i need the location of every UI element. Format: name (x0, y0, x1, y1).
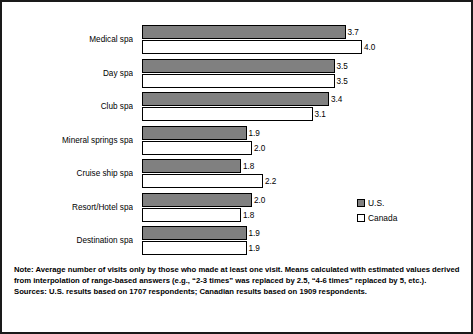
bar-group: Mineral springs spa1.92.0 (2, 126, 471, 156)
bar-stack: 1.82.2 (142, 159, 263, 188)
bar-value-label: 3.4 (331, 95, 342, 104)
bar-us: 3.5 (142, 59, 335, 73)
bar-value-label: 1.8 (243, 162, 254, 171)
bar-canada: 3.1 (142, 107, 313, 121)
bar-value-label: 1.9 (249, 244, 260, 253)
chart-footer: Note: Average number of visits only by t… (14, 265, 461, 298)
bar-canada: 4.0 (142, 40, 362, 54)
category-label: Day spa (2, 59, 133, 89)
bar-value-label: 1.9 (249, 128, 260, 137)
legend-item: U.S. (357, 198, 397, 208)
bar-us: 1.9 (142, 126, 247, 140)
bar-value-label: 1.9 (249, 229, 260, 238)
bar-group: Day spa3.53.5 (2, 59, 471, 89)
bar-value-label: 3.7 (348, 28, 359, 37)
bar-group: Resort/Hotel spa2.01.8 (2, 193, 471, 223)
bar-group: Club spa3.43.1 (2, 92, 471, 122)
bar-us: 3.7 (142, 25, 346, 39)
bar-value-label: 4.0 (364, 43, 375, 52)
bar-canada: 1.8 (142, 208, 241, 222)
legend-item: Canada (357, 213, 397, 223)
category-label: Destination spa (2, 226, 133, 256)
bar-stack: 3.43.1 (142, 92, 329, 121)
bar-us: 1.8 (142, 159, 241, 173)
bar-group: Destination spa1.91.9 (2, 226, 471, 256)
note-text: Note: Average number of visits only by t… (14, 265, 461, 287)
legend-label: U.S. (368, 198, 384, 208)
bar-stack: 3.74.0 (142, 25, 362, 54)
bar-value-label: 2.0 (254, 195, 265, 204)
bar-group: Medical spa3.74.0 (2, 25, 471, 55)
category-label: Medical spa (2, 25, 133, 55)
legend-label: Canada (368, 213, 397, 223)
bar-value-label: 3.5 (337, 61, 348, 70)
category-label: Cruise ship spa (2, 159, 133, 189)
bar-stack: 1.91.9 (142, 226, 247, 255)
bar-value-label: 3.5 (337, 76, 348, 85)
bar-us: 3.4 (142, 92, 329, 106)
sources-text: Sources: U.S. results based on 1707 resp… (14, 287, 461, 298)
bar-value-label: 2.2 (265, 177, 276, 186)
legend-swatch-icon (357, 199, 365, 207)
bar-us: 2.0 (142, 193, 252, 207)
bar-stack: 3.53.5 (142, 59, 335, 88)
bar-value-label: 3.1 (315, 110, 326, 119)
chart-legend: U.S.Canada (357, 198, 397, 228)
legend-swatch-icon (357, 214, 365, 222)
bar-us: 1.9 (142, 226, 247, 240)
plot-area: Medical spa3.74.0Day spa3.53.5Club spa3.… (2, 2, 471, 260)
bar-value-label: 1.8 (243, 210, 254, 219)
bar-canada: 1.9 (142, 241, 247, 255)
bar-canada: 3.5 (142, 74, 335, 88)
bar-canada: 2.0 (142, 141, 252, 155)
bar-canada: 2.2 (142, 174, 263, 188)
bar-value-label: 2.0 (254, 143, 265, 152)
category-label: Resort/Hotel spa (2, 193, 133, 223)
category-label: Club spa (2, 92, 133, 122)
chart-figure: Medical spa3.74.0Day spa3.53.5Club spa3.… (0, 0, 473, 334)
bar-stack: 2.01.8 (142, 193, 252, 222)
bar-stack: 1.92.0 (142, 126, 252, 155)
bar-group: Cruise ship spa1.82.2 (2, 159, 471, 189)
category-label: Mineral springs spa (2, 126, 133, 156)
